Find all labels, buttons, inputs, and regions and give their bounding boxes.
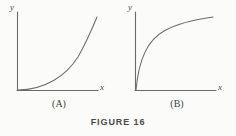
panel-b-x-axis-label: x (218, 83, 222, 92)
panel-b-curve (136, 17, 213, 90)
panel-a-curve (18, 17, 97, 90)
figure-16: y x y x (A) (B) FIGURE 16 (0, 0, 236, 136)
panel-a: y x (0, 0, 118, 100)
panel-a-y-axis-label: y (10, 3, 14, 12)
panel-a-caption: (A) (0, 99, 118, 109)
panel-b-y-axis-label: y (128, 3, 132, 12)
panel-b: y x (118, 0, 236, 100)
panel-b-caption: (B) (118, 99, 236, 109)
panel-a-x-axis-label: x (100, 83, 104, 92)
figure-title: FIGURE 16 (0, 118, 236, 127)
